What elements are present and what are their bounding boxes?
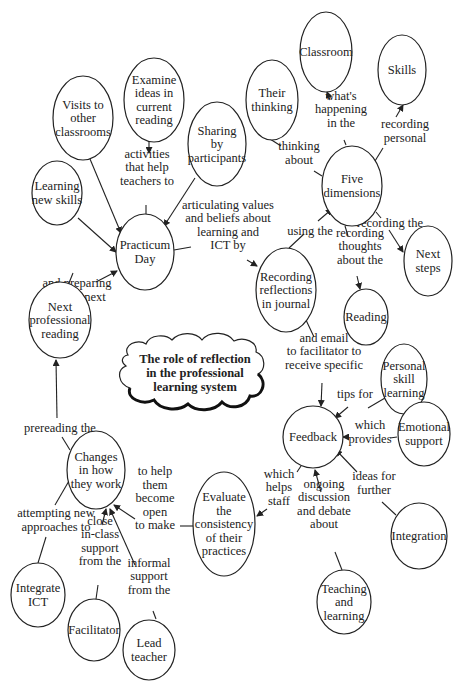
edge-line <box>96 585 98 599</box>
edge-label: about the <box>337 253 384 267</box>
edge-label: teachers to <box>120 174 174 188</box>
node-label: of their <box>206 531 243 545</box>
node-label: learning <box>324 609 366 623</box>
node-recording-reflections: Recordingreflectionsin journal <box>256 248 316 332</box>
edge-label: from the <box>79 554 122 568</box>
edge-five_dimensions-to-skills: recordingpersonal <box>375 105 430 161</box>
edge-line <box>56 360 57 418</box>
edge-label: and email <box>300 331 349 345</box>
node-label: thinking <box>251 100 293 114</box>
edge-line <box>153 611 156 619</box>
edge-label: which <box>264 467 295 481</box>
concept-map: The role of reflection in the profession… <box>0 0 470 687</box>
node-label: ICT <box>28 595 49 609</box>
edge-label: and debate <box>297 504 351 518</box>
node-sharing: Sharingbyparticipants <box>188 102 246 186</box>
node-label: Next <box>416 247 441 261</box>
node-label: Classroom <box>299 45 353 59</box>
node-label: they work <box>71 477 122 491</box>
edge-label: in-class <box>81 527 119 541</box>
edge-line <box>314 171 322 176</box>
edge-label: them <box>143 478 168 492</box>
edge-line <box>375 148 383 161</box>
edge-label: that help <box>125 160 168 174</box>
node-classroom: Classroom <box>299 12 353 92</box>
node-label: Facilitator <box>68 623 120 637</box>
node-label: Skills <box>388 63 417 77</box>
node-label: professional <box>29 313 91 327</box>
edge-label: using the <box>287 224 333 238</box>
node-label: Reading <box>345 310 387 324</box>
edge-label: activities <box>124 147 169 161</box>
node-label: Their <box>258 86 286 100</box>
node-label: Integration <box>392 529 448 543</box>
node-facilitator: Facilitator <box>68 599 121 661</box>
edge-label: discussion <box>298 490 351 504</box>
edge-label: support <box>81 541 119 555</box>
node-evaluate: Evaluatetheconsistencyof theirpractices <box>193 472 255 576</box>
node-teaching-learning: Teachingandlearning <box>317 570 371 634</box>
node-five-dimensions: Fivedimensions <box>322 146 382 226</box>
node-label: reading <box>41 327 79 341</box>
edge-line <box>389 230 403 252</box>
node-label: support <box>405 434 443 448</box>
edge-line <box>247 260 257 266</box>
edge-line <box>257 509 267 516</box>
node-label: Visits to <box>62 98 103 112</box>
node-label: ideas in <box>135 86 174 100</box>
node-label: reading <box>135 113 173 127</box>
node-label: by <box>211 137 224 151</box>
edge-label: further <box>357 483 392 497</box>
node-integrate-ict: IntegrateICT <box>11 563 65 627</box>
node-label: Lead <box>137 636 163 650</box>
edge-feedback-to-evaluate: whichhelpsstaff <box>257 466 301 516</box>
node-label: and <box>335 595 354 609</box>
edge-line <box>335 407 348 418</box>
edge-recording_reflections-to-five_dimensions: using the <box>287 209 333 248</box>
node-label: practices <box>202 544 247 558</box>
edge-evaluate-to-changes: to helpthembecomeopento make <box>114 464 193 532</box>
title-cloud: The role of reflection in the profession… <box>120 333 264 409</box>
node-lead-teacher: Leadteacher <box>123 620 175 680</box>
edge-line <box>335 552 342 570</box>
node-practicum-day: PracticumDay <box>116 214 174 290</box>
node-label: dimensions <box>324 186 381 200</box>
edge-label: tips for <box>337 387 374 401</box>
node-label: the <box>216 504 232 518</box>
node-label: in journal <box>262 297 311 311</box>
node-learning-new-skills: Learningnew skills <box>32 161 82 225</box>
cloud-title-line-1: The role of reflection <box>139 352 251 366</box>
node-next-professional-reading: Nextprofessionalreading <box>29 282 91 358</box>
node-label: Recording <box>260 270 313 284</box>
node-feedback: Feedback <box>283 406 343 468</box>
node-label: learning <box>384 386 426 400</box>
node-integration: Integration <box>391 503 447 569</box>
node-visits: Visits tootherclassrooms <box>53 76 113 160</box>
edge-line <box>38 537 46 563</box>
node-label: skill <box>393 372 415 386</box>
cloud-title-line-2: in the professional <box>146 366 244 380</box>
node-label: participants <box>188 151 246 165</box>
node-label: Feedback <box>289 430 338 444</box>
node-label: Evaluate <box>202 490 246 504</box>
node-label: Emotional <box>398 420 451 434</box>
edge-line <box>321 383 322 406</box>
cloud-title-line-3: learning system <box>153 380 237 394</box>
node-label: Sharing <box>198 124 238 138</box>
node-their-thinking: Theirthinking <box>246 60 298 140</box>
node-examine-ideas: Examineideas incurrentreading <box>124 58 184 142</box>
edge-label: open <box>143 505 168 519</box>
node-label: reflections <box>260 283 313 297</box>
node-label: Practicum <box>120 238 171 252</box>
edge-label: in the <box>327 116 356 130</box>
edge-line <box>382 502 396 515</box>
edge-label: happening <box>315 102 368 116</box>
edge-label: thoughts <box>338 239 381 253</box>
node-label: Next <box>48 300 73 314</box>
edge-label: thinking <box>278 139 320 153</box>
edge-label: informal <box>127 556 171 570</box>
edge-visits-to-practicum_day <box>90 159 121 233</box>
edge-label: personal <box>384 131 427 145</box>
edge-label: articulating values <box>182 198 274 212</box>
edge-practicum_day-to-recording_reflections: articulating valuesand beliefs aboutlear… <box>174 198 274 266</box>
